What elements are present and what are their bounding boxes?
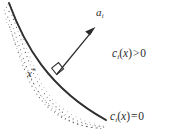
gradient-vector-label: ai [96,7,104,20]
feasible-close-paren: ) [128,47,132,59]
feasible-value: 0 [140,47,146,59]
boundary-close-paren: ) [126,110,130,122]
boundary-label: ci(x)=0 [110,111,144,124]
gradient-vector-subscript: i [102,12,104,19]
feasible-region-label: ci(x)>0 [112,48,146,61]
point-superscript: * [32,67,36,76]
boundary-relation: = [131,110,138,122]
constraint-boundary-curve [9,3,106,120]
boundary-value: 0 [138,110,144,122]
point-label: x* [27,68,36,79]
gradient-vector-arrowhead [85,27,95,36]
gradient-vector-symbol: a [96,6,102,18]
feasible-relation: > [133,47,140,59]
constraint-boundary-curve-ink [10,4,106,121]
constraint-diagram-figure: ai x* ci(x)>0 ci(x)=0 [0,0,170,138]
diagram-canvas [0,0,170,138]
